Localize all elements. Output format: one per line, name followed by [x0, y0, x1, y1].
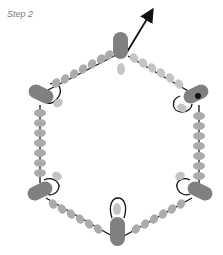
edge-bottom-left-beads: [47, 198, 104, 236]
exit-arrow-icon: [127, 14, 150, 52]
edge-top-right-beads: [128, 52, 185, 91]
edge-left-beads: [34, 109, 46, 177]
dagger-bead-bottom: [110, 217, 125, 246]
dagger-bead-top: [113, 32, 128, 59]
edge-right-beads: [193, 112, 205, 180]
thread-knot-icon: [195, 93, 201, 99]
edge-top-left-beads: [50, 49, 115, 90]
beadwork-diagram: [0, 0, 223, 255]
corner-light-beads: [51, 63, 189, 215]
dagger-bead-top-left: [26, 82, 55, 106]
